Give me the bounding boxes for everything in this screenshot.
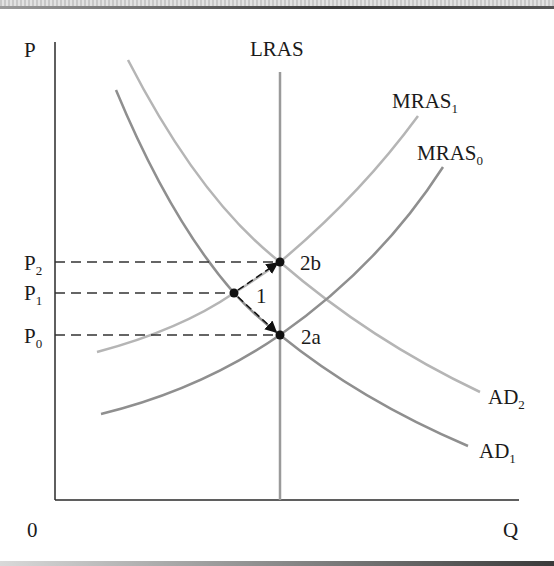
x-axis-label: Q [503,518,518,542]
p0-label: P0 [24,324,42,351]
ad2-label: AD2 [488,385,525,412]
ad1-label: AD1 [479,439,516,466]
lras-label: LRAS [250,37,304,61]
mras1-label: MRAS1 [392,89,458,116]
point-2a [276,331,285,340]
p1-label: P1 [24,281,42,308]
mras0-label: MRAS0 [417,141,483,168]
point-2b [276,258,285,267]
mras0-curve [101,167,443,414]
point-1 [230,289,239,298]
point-1-label: 1 [256,284,267,308]
origin-label: 0 [27,518,38,542]
diagram-canvas: P Q 0 LRAS MRAS1 MRAS0 AD2 AD1 P2 P1 P0 … [0,0,554,566]
p2-label: P2 [24,251,42,278]
point-2b-label: 2b [300,251,321,275]
y-axis-label: P [24,38,36,62]
point-2a-label: 2a [301,325,322,349]
